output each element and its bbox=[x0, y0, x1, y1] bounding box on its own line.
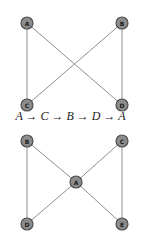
graph-2: B C A D E bbox=[21, 135, 128, 230]
graph-2-node-E: E bbox=[116, 218, 128, 230]
node-label: D bbox=[120, 102, 125, 109]
node-label: C bbox=[25, 102, 30, 109]
graph-2-node-D: D bbox=[21, 218, 33, 230]
node-label: A bbox=[74, 179, 79, 186]
graph-1-node-A: A bbox=[21, 17, 33, 29]
node-label: C bbox=[120, 138, 125, 145]
graph-1-edges bbox=[27, 23, 122, 105]
graph-2-node-B: B bbox=[21, 135, 33, 147]
graph-2-node-A: A bbox=[70, 176, 82, 188]
graph-1: A B C D bbox=[21, 17, 128, 111]
edge-C-A bbox=[76, 141, 122, 182]
graph-1-node-B: B bbox=[116, 17, 128, 29]
cycle-caption: A → C → B → D → A bbox=[0, 109, 141, 124]
node-label: B bbox=[25, 138, 30, 145]
edge-B-A bbox=[27, 141, 76, 182]
node-label: B bbox=[120, 20, 125, 27]
node-label: E bbox=[120, 221, 124, 228]
node-label: A bbox=[25, 20, 30, 27]
graph-2-node-C: C bbox=[116, 135, 128, 147]
node-label: D bbox=[25, 221, 30, 228]
edge-A-D bbox=[27, 182, 76, 224]
edge-A-E bbox=[76, 182, 122, 224]
